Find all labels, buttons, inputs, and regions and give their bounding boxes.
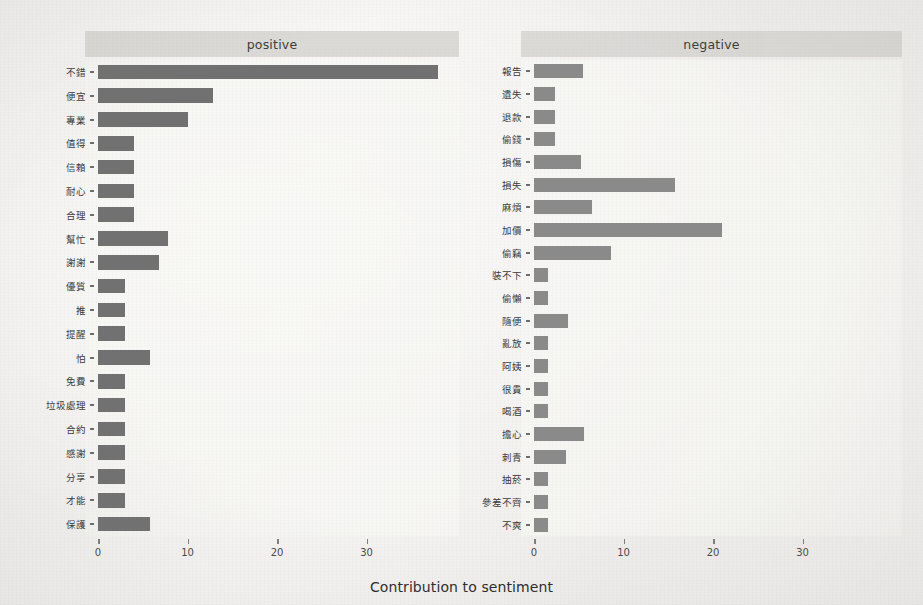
y-axis-tick bbox=[526, 365, 530, 367]
y-axis-label: 加價 bbox=[444, 223, 522, 237]
y-axis-tick bbox=[90, 476, 94, 478]
y-axis-label: 幫忙 bbox=[8, 232, 86, 246]
y-axis-tick bbox=[526, 161, 530, 163]
y-axis-tick bbox=[526, 388, 530, 390]
bar bbox=[98, 350, 150, 365]
y-axis-label: 合理 bbox=[8, 208, 86, 222]
y-axis-label: 退款 bbox=[444, 110, 522, 124]
y-axis-tick bbox=[90, 190, 94, 192]
x-axis-tick bbox=[98, 539, 100, 544]
y-axis-tick bbox=[526, 206, 530, 208]
y-axis-label: 不錯 bbox=[8, 65, 86, 79]
y-axis-tick bbox=[526, 252, 530, 254]
y-axis-tick bbox=[90, 380, 94, 382]
bar bbox=[98, 279, 125, 294]
y-axis-tick bbox=[526, 524, 530, 526]
bar bbox=[534, 472, 548, 486]
y-axis-label: 免費 bbox=[8, 374, 86, 388]
y-axis-tick bbox=[90, 452, 94, 454]
y-axis-label: 才能 bbox=[8, 493, 86, 507]
y-axis-label: 隨便 bbox=[444, 314, 522, 328]
bar bbox=[98, 374, 125, 389]
y-axis-tick bbox=[526, 229, 530, 231]
bar bbox=[534, 178, 675, 192]
bar bbox=[98, 231, 168, 246]
y-axis-label: 很貴 bbox=[444, 382, 522, 396]
y-axis-tick bbox=[526, 184, 530, 186]
bar bbox=[98, 326, 125, 341]
y-axis-tick bbox=[90, 357, 94, 359]
bar bbox=[534, 246, 611, 260]
y-axis-tick bbox=[526, 274, 530, 276]
y-axis-label: 怕 bbox=[8, 351, 86, 365]
y-axis-label: 優質 bbox=[8, 279, 86, 293]
y-axis-label: 擔心 bbox=[444, 427, 522, 441]
bar bbox=[98, 112, 188, 127]
bar bbox=[534, 336, 548, 350]
figure-canvas: positive 不錯便宜專業值得信賴耐心合理幫忙謝謝優質推提醒怕免費垃圾處理合… bbox=[0, 0, 923, 605]
y-axis-label: 分享 bbox=[8, 470, 86, 484]
y-axis-tick bbox=[526, 297, 530, 299]
facet-strip-negative: negative bbox=[521, 31, 902, 57]
x-axis-tick-label: 20 bbox=[271, 547, 284, 558]
y-axis-tick bbox=[526, 478, 530, 480]
y-axis-label: 損傷 bbox=[444, 155, 522, 169]
x-axis-tick bbox=[534, 539, 536, 544]
y-axis-label: 參差不齊 bbox=[444, 495, 522, 509]
bar bbox=[534, 404, 548, 418]
y-axis-label: 刺青 bbox=[444, 450, 522, 464]
y-axis-tick bbox=[90, 142, 94, 144]
x-axis-tick bbox=[713, 539, 715, 544]
bar bbox=[534, 268, 548, 282]
bar bbox=[534, 314, 568, 328]
y-axis-tick bbox=[90, 499, 94, 501]
y-axis-label: 報告 bbox=[444, 64, 522, 78]
x-axis-title: Contribution to sentiment bbox=[0, 579, 923, 595]
plot-area-positive bbox=[85, 60, 459, 536]
y-axis-tick bbox=[526, 70, 530, 72]
y-axis-tick bbox=[90, 166, 94, 168]
y-axis-tick bbox=[90, 309, 94, 311]
x-axis-tick bbox=[277, 539, 279, 544]
y-axis-label: 便宜 bbox=[8, 89, 86, 103]
y-axis-label: 提醒 bbox=[8, 327, 86, 341]
bar bbox=[98, 469, 125, 484]
bar bbox=[98, 184, 134, 199]
y-axis-label: 偷竊 bbox=[444, 246, 522, 260]
y-axis-tick bbox=[90, 261, 94, 263]
y-axis-label: 專業 bbox=[8, 113, 86, 127]
facet-strip-positive: positive bbox=[85, 31, 459, 57]
y-axis-label: 抽菸 bbox=[444, 472, 522, 486]
bar bbox=[534, 518, 548, 532]
bar bbox=[534, 495, 548, 509]
y-axis-tick bbox=[526, 342, 530, 344]
y-axis-label: 垃圾處理 bbox=[8, 398, 86, 412]
bar bbox=[98, 136, 134, 151]
y-axis-tick bbox=[526, 456, 530, 458]
bar bbox=[98, 303, 125, 318]
bar bbox=[98, 160, 134, 175]
bar bbox=[534, 291, 548, 305]
bar bbox=[534, 132, 555, 146]
y-axis-label: 謝謝 bbox=[8, 255, 86, 269]
bar bbox=[534, 427, 584, 441]
y-axis-tick bbox=[526, 320, 530, 322]
bar bbox=[98, 493, 125, 508]
bar bbox=[534, 223, 722, 237]
y-axis-tick bbox=[90, 95, 94, 97]
bar bbox=[534, 64, 583, 78]
y-axis-label: 耐心 bbox=[8, 184, 86, 198]
y-axis-label: 偷錢 bbox=[444, 132, 522, 146]
bar bbox=[534, 155, 581, 169]
y-axis-label: 合約 bbox=[8, 422, 86, 436]
x-axis-tick-label: 10 bbox=[617, 547, 630, 558]
y-axis-label: 感謝 bbox=[8, 446, 86, 460]
y-axis-tick bbox=[90, 238, 94, 240]
bar bbox=[98, 422, 125, 437]
plot-area-negative bbox=[521, 60, 902, 536]
bar bbox=[98, 255, 159, 270]
y-axis-label: 遺失 bbox=[444, 87, 522, 101]
y-axis-label: 偷懶 bbox=[444, 291, 522, 305]
y-axis-tick bbox=[526, 116, 530, 118]
y-axis-tick bbox=[526, 93, 530, 95]
